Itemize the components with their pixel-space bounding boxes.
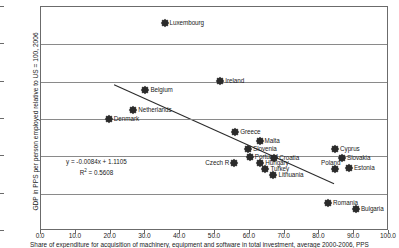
- data-point-marker: [216, 76, 224, 84]
- gridline: [41, 194, 387, 195]
- data-point-label: Malta: [265, 137, 280, 144]
- data-point-marker: [352, 205, 360, 213]
- data-point-marker: [129, 105, 137, 113]
- regression-equation: y = -0.0084x + 1.1105: [66, 158, 127, 165]
- data-point-marker: [105, 114, 113, 122]
- x-tick-mark: [75, 230, 76, 234]
- data-point-label: Luxembourg: [170, 19, 205, 26]
- data-point-label: Slovenia: [253, 145, 277, 152]
- data-point-marker: [141, 86, 149, 94]
- x-tick-mark: [179, 230, 180, 234]
- data-point-marker: [246, 153, 254, 161]
- data-point-marker: [324, 199, 332, 207]
- x-tick-mark: [40, 230, 41, 234]
- data-point-label: Belgium: [150, 86, 172, 93]
- x-tick-mark: [249, 230, 250, 234]
- gridline: [41, 44, 387, 45]
- data-point-label: Czech R: [205, 159, 229, 166]
- data-point-label: Netherlands: [138, 106, 171, 113]
- y-tick-mark: [0, 230, 4, 231]
- y-tick-mark: [0, 6, 4, 7]
- x-axis-title: Share of expenditure for acquisition of …: [0, 241, 399, 248]
- data-point-marker: [231, 128, 239, 136]
- regression-r-squared: R2 = 0.5608: [66, 166, 127, 177]
- data-point-marker: [331, 165, 339, 173]
- y-tick-mark: [0, 43, 4, 44]
- gridline: [41, 119, 387, 120]
- data-point-label: Cyprus: [340, 145, 360, 152]
- y-tick-mark: [0, 118, 4, 119]
- x-tick-mark: [388, 230, 389, 234]
- data-point-marker: [345, 163, 353, 171]
- plot-area: LuxembourgIrelandBelgiumNetherlandsDenma…: [40, 6, 388, 230]
- x-tick-mark: [214, 230, 215, 234]
- data-point-label: Estonia: [354, 164, 375, 171]
- y-tick-mark: [0, 81, 4, 82]
- y-tick-mark: [0, 193, 4, 194]
- data-point-label: Slovakia: [347, 154, 370, 161]
- data-point-label: Bulgaria: [361, 205, 384, 212]
- regression-annotation: y = -0.0084x + 1.1105 R2 = 0.5608: [66, 157, 127, 177]
- data-point-label: Poland: [321, 159, 340, 166]
- x-tick-mark: [110, 230, 111, 234]
- x-tick-mark: [318, 230, 319, 234]
- data-point-label: Greece: [240, 128, 260, 135]
- y-axis: 0.150.350.550.750.951.151.35: [0, 0, 40, 248]
- x-tick-mark: [284, 230, 285, 234]
- x-tick-mark: [144, 230, 145, 234]
- x-tick-mark: [353, 230, 354, 234]
- data-point-marker: [331, 145, 339, 153]
- y-tick-mark: [0, 155, 4, 156]
- data-point-marker: [255, 137, 263, 145]
- data-point-label: Lithuania: [278, 171, 303, 178]
- data-point-label: Ireland: [225, 77, 244, 84]
- data-point-marker: [269, 170, 277, 178]
- data-point-label: Denmark: [114, 115, 139, 122]
- data-point-marker: [160, 19, 168, 27]
- gridline: [41, 82, 387, 83]
- chart-container: GDP in PPS per person employed relative …: [0, 0, 399, 248]
- data-point-marker: [230, 159, 238, 167]
